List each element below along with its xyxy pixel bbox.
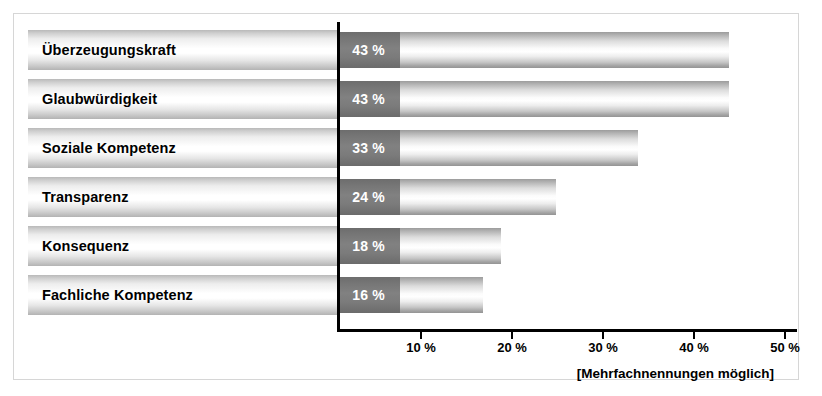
- plot-area: Überzeugungskraft 43 % Glaubwürdigkeit 4…: [28, 22, 798, 332]
- bar-row: Glaubwürdigkeit 43 %: [28, 79, 798, 119]
- bar-row: Fachliche Kompetenz 16 %: [28, 275, 798, 315]
- value-label: 33 %: [337, 130, 400, 166]
- x-axis-tick-label: 40 %: [679, 340, 709, 355]
- category-label: Glaubwürdigkeit: [42, 79, 157, 119]
- chart-figure: Überzeugungskraft 43 % Glaubwürdigkeit 4…: [0, 0, 822, 396]
- category-label: Soziale Kompetenz: [42, 128, 176, 168]
- y-axis-line: [337, 22, 340, 332]
- bar-row: Konsequenz 18 %: [28, 226, 798, 266]
- x-axis-tick: [784, 332, 786, 339]
- bar-row: Überzeugungskraft 43 %: [28, 30, 798, 70]
- x-axis-tick-label: 30 %: [588, 340, 618, 355]
- value-label: 43 %: [337, 32, 400, 68]
- x-axis-tick: [602, 332, 604, 339]
- chart-footnote: [Mehrfachnennungen möglich]: [577, 366, 774, 381]
- value-label: 18 %: [337, 228, 400, 264]
- category-label: Transparenz: [42, 177, 129, 217]
- category-label: Fachliche Kompetenz: [42, 275, 193, 315]
- bar-row: Soziale Kompetenz 33 %: [28, 128, 798, 168]
- value-label: 24 %: [337, 179, 400, 215]
- x-axis-line: [337, 329, 797, 332]
- value-label: 43 %: [337, 81, 400, 117]
- x-axis-tick: [693, 332, 695, 339]
- x-axis-tick: [420, 332, 422, 339]
- category-label: Überzeugungskraft: [42, 30, 176, 70]
- x-axis-tick-label: 50 %: [770, 340, 800, 355]
- x-axis-tick-label: 10 %: [406, 340, 436, 355]
- value-label: 16 %: [337, 277, 400, 313]
- bar-row: Transparenz 24 %: [28, 177, 798, 217]
- x-axis-tick: [511, 332, 513, 339]
- x-axis-tick-label: 20 %: [497, 340, 527, 355]
- category-label: Konsequenz: [42, 226, 129, 266]
